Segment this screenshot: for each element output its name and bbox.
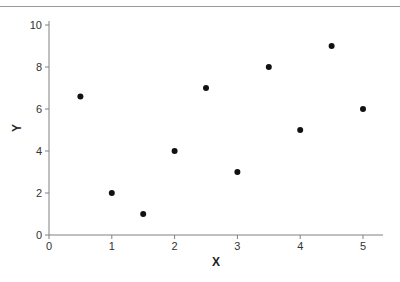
y-tick-label: 2	[36, 187, 42, 199]
x-tick-label: 1	[109, 240, 115, 252]
x-tick-label: 0	[46, 240, 52, 252]
y-axis-title: Y	[10, 124, 24, 132]
y-tick-label: 6	[36, 103, 42, 115]
y-tick-label: 0	[36, 229, 42, 241]
y-axis-ticks: 0246810	[30, 19, 49, 241]
data-point	[203, 85, 209, 91]
y-tick-label: 10	[30, 19, 42, 31]
scatter-plot: 0246810 012345 X Y	[0, 0, 400, 282]
data-point	[266, 64, 272, 70]
data-point	[329, 43, 335, 49]
x-tick-label: 4	[297, 240, 303, 252]
data-point	[109, 190, 115, 196]
x-axis-ticks: 012345	[46, 235, 366, 252]
x-tick-label: 3	[234, 240, 240, 252]
data-point	[297, 127, 303, 133]
data-point	[360, 106, 366, 112]
y-tick-label: 8	[36, 61, 42, 73]
data-points	[77, 43, 366, 217]
data-point	[234, 169, 240, 175]
data-point	[140, 211, 146, 217]
data-point	[172, 148, 178, 154]
x-tick-label: 2	[172, 240, 178, 252]
x-tick-label: 5	[360, 240, 366, 252]
data-point	[77, 93, 83, 99]
x-axis-title: X	[212, 255, 220, 269]
y-tick-label: 4	[36, 145, 42, 157]
